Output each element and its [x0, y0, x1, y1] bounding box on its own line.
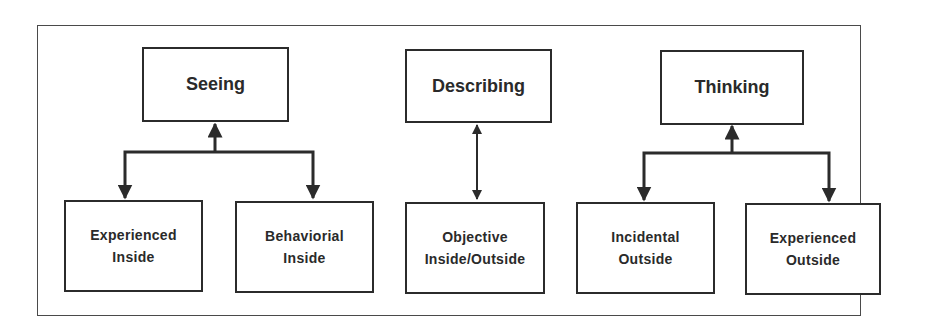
incidental-outside-line2: Outside: [618, 248, 672, 270]
seeing-box: Seeing: [142, 47, 289, 122]
describing-label: Describing: [432, 76, 525, 97]
incidental-outside-line1: Incidental: [611, 226, 679, 248]
behaviorial-inside-line2: Inside: [283, 247, 325, 269]
experienced-outside-line2: Outside: [786, 249, 840, 271]
thinking-connector: [644, 126, 829, 201]
objective-line1: Objective: [442, 226, 508, 248]
experienced-outside-box: Experienced Outside: [745, 203, 881, 295]
experienced-inside-line1: Experienced: [90, 224, 177, 246]
thinking-box: Thinking: [660, 50, 804, 125]
describing-box: Describing: [405, 49, 552, 123]
behaviorial-inside-box: Behaviorial Inside: [235, 201, 374, 293]
seeing-connector: [125, 124, 313, 198]
incidental-outside-box: Incidental Outside: [576, 202, 715, 294]
behaviorial-inside-line1: Behaviorial: [265, 225, 344, 247]
objective-inside-outside-box: Objective Inside/Outside: [405, 202, 545, 294]
seeing-label: Seeing: [186, 74, 245, 95]
thinking-label: Thinking: [695, 77, 770, 98]
experienced-outside-line1: Experienced: [770, 227, 857, 249]
experienced-inside-line2: Inside: [112, 246, 154, 268]
objective-line2: Inside/Outside: [425, 248, 526, 270]
experienced-inside-box: Experienced Inside: [64, 200, 203, 292]
